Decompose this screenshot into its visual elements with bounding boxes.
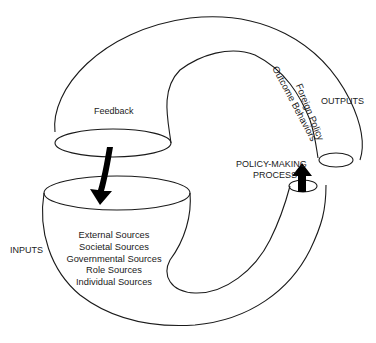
feedback-opening <box>55 129 171 157</box>
input-source-governmental: Governmental Sources <box>66 254 162 266</box>
input-bowl-inner <box>167 186 290 293</box>
input-source-individual: Individual Sources <box>66 277 162 289</box>
diagram-shapes <box>0 0 376 343</box>
input-source-role: Role Sources <box>66 265 162 277</box>
input-source-external: External Sources <box>66 230 162 242</box>
feedback-label: Feedback <box>94 106 134 116</box>
inputs-label: INPUTS <box>10 245 43 255</box>
output-opening <box>319 153 353 167</box>
policy-process-diagram: Feedback INPUTS OUTPUTS POLICY-MAKING PR… <box>0 0 376 343</box>
process-label-line1: POLICY-MAKING <box>236 159 307 169</box>
process-label-line2: PROCESS <box>253 170 297 180</box>
input-source-societal: Societal Sources <box>66 242 162 254</box>
input-sources-list: External Sources Societal Sources Govern… <box>66 230 162 289</box>
input-bowl-opening <box>44 176 190 210</box>
outputs-label: OUTPUTS <box>321 96 364 106</box>
